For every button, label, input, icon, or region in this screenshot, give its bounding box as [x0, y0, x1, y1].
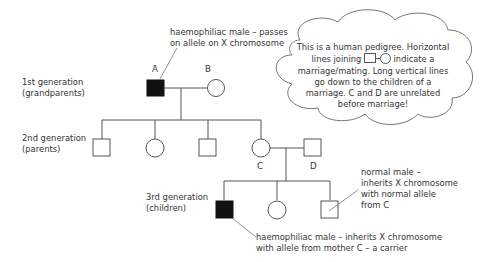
- gen3-affected-male: [216, 201, 233, 218]
- cloud-line-part: lines joining: [312, 54, 362, 64]
- gen2-male-2: [199, 139, 216, 156]
- individual-D-male: [304, 139, 321, 156]
- annotation-line: haemophiliac male – inherits X chromosom…: [256, 232, 442, 243]
- cloud-text: This is a human pedigree. Horizontal lin…: [278, 42, 468, 111]
- cloud-line: This is a human pedigree. Horizontal: [278, 42, 468, 53]
- cloud-line-part: indicate a: [394, 54, 435, 64]
- cloud-line: marriage/mating. Long vertical lines: [278, 66, 468, 77]
- square-symbol-icon: [364, 53, 376, 63]
- label-A: A: [152, 64, 158, 74]
- cloud-line: before marriage!: [278, 99, 468, 110]
- cloud-line: go down to the children of a: [278, 77, 468, 88]
- individual-B-female: [208, 80, 225, 97]
- gen1-label-line2: (grandparents): [22, 88, 85, 99]
- annotation-line: with normal allele: [361, 189, 458, 200]
- gen2-label-line1: 2nd generation: [22, 133, 86, 144]
- label-D: D: [310, 161, 317, 171]
- annotation-line: inherits X chromosome: [361, 178, 458, 189]
- annotation-line: with allele from mother C – a carrier: [256, 243, 442, 254]
- gen3-label: 3rd generation (children): [146, 192, 208, 214]
- circle-symbol-icon: [380, 53, 391, 64]
- normal-son-annotation: normal male – inherits X chromosome with…: [361, 167, 458, 211]
- gen3-normal-male: [321, 201, 338, 218]
- label-C: C: [257, 161, 263, 171]
- gen3-label-line1: 3rd generation: [146, 192, 208, 203]
- cloud-line: marriage. C and D are unrelated: [278, 88, 468, 99]
- grandfather-annotation: haemophiliac male – passes on allele on …: [170, 27, 288, 49]
- gen3-female: [268, 201, 286, 219]
- cloud-line: lines joining indicate a: [278, 53, 468, 65]
- individual-A-affected-male: [147, 80, 164, 96]
- label-B: B: [205, 64, 211, 74]
- gen2-male-1: [93, 139, 110, 156]
- annotation-line: haemophiliac male – passes: [170, 27, 288, 38]
- gen3-label-line2: (children): [146, 203, 208, 214]
- gen2-label: 2nd generation (parents): [22, 133, 86, 155]
- annotation-line: on allele on X chromosome: [170, 38, 288, 49]
- gen2-label-line2: (parents): [22, 144, 86, 155]
- gen1-label: 1st generation (grandparents): [22, 77, 85, 99]
- gen1-label-line1: 1st generation: [22, 77, 85, 88]
- individual-C-carrier-female: [252, 139, 270, 157]
- annotation-line: normal male –: [361, 167, 458, 178]
- annotation-line: from C: [361, 200, 458, 211]
- affected-son-annotation: haemophiliac male – inherits X chromosom…: [256, 232, 442, 254]
- gen2-female-1: [146, 139, 164, 157]
